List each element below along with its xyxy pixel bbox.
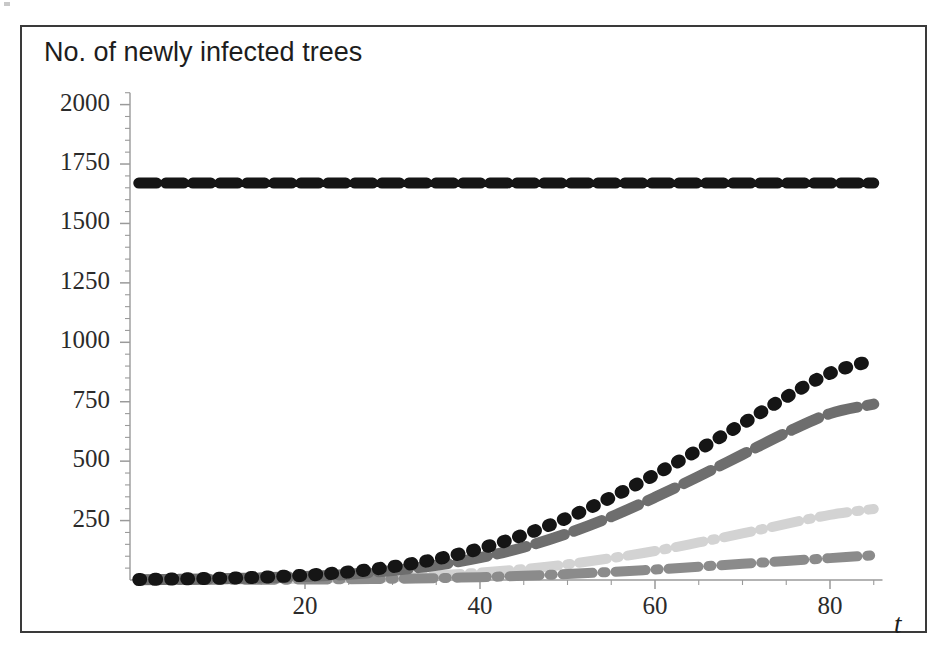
y-tick-label: 750 xyxy=(73,386,111,414)
series-group xyxy=(139,183,874,580)
x-tick-label: 20 xyxy=(275,592,335,620)
screenshot-root: No. of newly infected trees 250500750100… xyxy=(0,0,948,648)
y-tick-label: 1500 xyxy=(60,207,110,235)
figure-frame: No. of newly infected trees 250500750100… xyxy=(20,25,927,633)
y-tick-label: 1000 xyxy=(60,326,110,354)
y-tick-label: 250 xyxy=(73,505,111,533)
y-tick-label: 500 xyxy=(73,445,111,473)
plot-area xyxy=(22,27,929,635)
x-tick-label: 40 xyxy=(450,592,510,620)
x-tick-label: 60 xyxy=(625,592,685,620)
scan-artifact-speck xyxy=(4,2,10,6)
x-tick-label: 80 xyxy=(800,592,860,620)
axes-group xyxy=(120,93,883,589)
series-scenario-dark-gray-dashed xyxy=(139,404,874,580)
y-tick-label: 1250 xyxy=(60,267,110,295)
y-tick-label: 1750 xyxy=(60,148,110,176)
chart-canvas xyxy=(22,27,929,635)
x-axis-name: t xyxy=(894,609,902,640)
y-tick-label: 2000 xyxy=(60,89,110,117)
series-scenario-black-dotted xyxy=(139,360,874,579)
